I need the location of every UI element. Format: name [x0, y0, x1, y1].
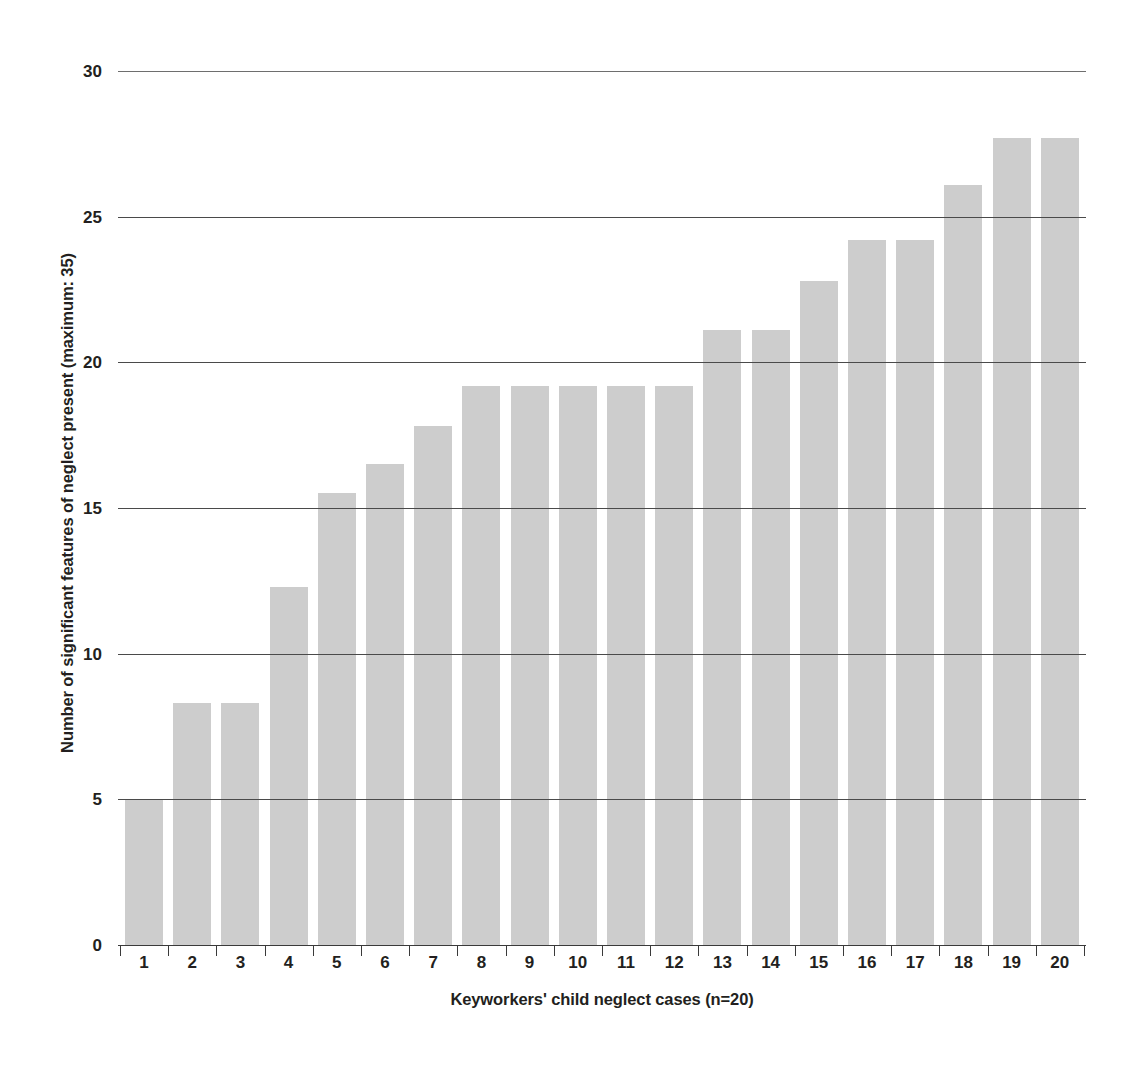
x-tick-label-11: 11 [602, 950, 650, 976]
bar [125, 799, 163, 945]
bar [366, 464, 404, 945]
bar [848, 240, 886, 945]
x-tick-label-9: 9 [506, 950, 554, 976]
bar [607, 386, 645, 945]
bar [993, 138, 1031, 945]
bar [944, 185, 982, 945]
y-tick-label-5: 5 [56, 791, 102, 808]
x-tick-label-13: 13 [698, 950, 746, 976]
x-tick-label-5: 5 [313, 950, 361, 976]
y-tick-label-30: 30 [56, 63, 102, 80]
x-tick-label-1: 1 [120, 950, 168, 976]
bar [221, 703, 259, 945]
y-tick-label-0: 0 [56, 937, 102, 954]
bar [1041, 138, 1079, 945]
x-tick-label-8: 8 [457, 950, 505, 976]
bar [896, 240, 934, 945]
bar [414, 426, 452, 945]
y-tick-label-15: 15 [56, 500, 102, 517]
x-tick-label-20: 20 [1036, 950, 1084, 976]
bar [318, 493, 356, 945]
bar [752, 330, 790, 945]
x-tick-label-4: 4 [265, 950, 313, 976]
x-tick-label-16: 16 [843, 950, 891, 976]
bar [655, 386, 693, 945]
x-axis-title: Keyworkers' child neglect cases (n=20) [118, 988, 1086, 1010]
bar [511, 386, 549, 945]
bar [800, 281, 838, 945]
bar [559, 386, 597, 945]
x-tick-label-17: 17 [891, 950, 939, 976]
x-tick-label-18: 18 [939, 950, 987, 976]
x-tick-label-3: 3 [216, 950, 264, 976]
bar [462, 386, 500, 945]
gridline-25 [118, 217, 1086, 218]
x-tick-label-2: 2 [168, 950, 216, 976]
y-tick-label-25: 25 [56, 209, 102, 226]
x-tick-label-19: 19 [988, 950, 1036, 976]
x-tick-label-14: 14 [747, 950, 795, 976]
x-tick-label-7: 7 [409, 950, 457, 976]
x-tick-label-12: 12 [650, 950, 698, 976]
bar [173, 703, 211, 945]
y-tick-label-20: 20 [56, 354, 102, 371]
x-tick-label-6: 6 [361, 950, 409, 976]
gridline-10 [118, 654, 1086, 655]
x-tick-label-10: 10 [554, 950, 602, 976]
y-axis-tick-labels: 051015202530 [40, 71, 102, 945]
bar [270, 587, 308, 945]
gridline-5 [118, 799, 1086, 800]
gridline-30 [118, 71, 1086, 72]
gridline-15 [118, 508, 1086, 509]
x-axis-tick-labels: 1234567891011121314151617181920 [118, 950, 1086, 976]
y-tick-label-10: 10 [56, 646, 102, 663]
gridline-20 [118, 362, 1086, 363]
bar [703, 330, 741, 945]
x-tick-label-15: 15 [795, 950, 843, 976]
plot-area [118, 71, 1086, 945]
bar-chart-figure: Number of significant features of neglec… [0, 0, 1147, 1070]
x-axis-line [118, 945, 1086, 946]
